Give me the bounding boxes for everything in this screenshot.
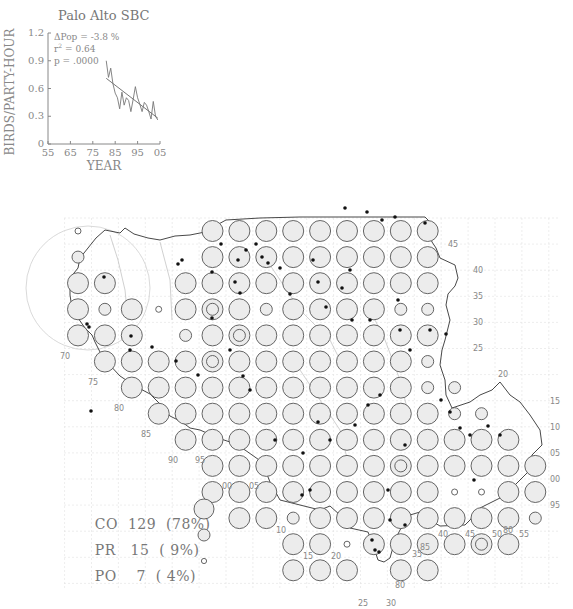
co-circle-icon: [229, 351, 250, 372]
co-circle-icon: [363, 351, 384, 372]
co-circle-icon: [390, 508, 411, 529]
co-circle-icon: [363, 221, 384, 242]
y-tick-label: 0.3: [28, 110, 44, 121]
co-circle-icon: [498, 482, 519, 503]
grid-label-right: 45: [448, 240, 458, 249]
co-circle-icon: [471, 508, 492, 529]
sighting-dot: [174, 359, 178, 363]
co-circle-icon: [363, 247, 384, 268]
grid-label-bottom: 95: [195, 456, 205, 465]
po-circle-icon: [75, 228, 81, 234]
sighting-dot: [308, 488, 312, 492]
co-circle-icon: [229, 377, 250, 398]
sighting-dot: [353, 423, 357, 427]
legend-po-circle-icon: [201, 558, 206, 563]
co-circle-icon: [310, 273, 331, 294]
sighting-dot: [403, 443, 407, 447]
sighting-dot: [273, 438, 277, 442]
co-circle-icon: [363, 325, 384, 346]
co-circle-icon: [256, 325, 277, 346]
co-circle-icon: [175, 273, 196, 294]
co-circle-icon: [256, 455, 277, 476]
sighting-dot: [377, 550, 381, 554]
sighting-dot: [366, 403, 370, 407]
sighting-dot: [408, 348, 412, 352]
po-circle-icon: [479, 489, 485, 495]
co-circle-icon: [363, 403, 384, 424]
grid-label-right: 20: [498, 370, 508, 379]
po-circle-icon: [452, 489, 458, 495]
co-circle-icon: [390, 351, 411, 372]
co-circle-icon: [390, 560, 411, 581]
co-circle-icon: [337, 482, 358, 503]
grid-label-right: 15: [550, 397, 560, 406]
sighting-dot: [370, 538, 374, 542]
co-circle-icon: [283, 325, 304, 346]
sighting-dot: [238, 291, 242, 295]
sighting-dot: [393, 215, 397, 219]
sighting-dot: [403, 523, 407, 527]
co-circle-icon: [256, 377, 277, 398]
grid-label-bottom: 90: [168, 456, 178, 465]
sighting-dot: [219, 242, 223, 246]
co-circle-icon: [283, 429, 304, 450]
sighting-dot: [486, 424, 490, 428]
grid-label-left: 70: [60, 352, 70, 361]
co-circle-icon: [310, 299, 331, 320]
sighting-dot: [368, 318, 372, 322]
sighting-dot: [468, 433, 472, 437]
co-circle-icon: [148, 351, 169, 372]
legend-pr-circle-icon: [198, 529, 210, 541]
co-circle-icon: [417, 247, 438, 268]
grid-label-right: 95: [550, 501, 560, 510]
sighting-dot: [236, 258, 240, 262]
sighting-dot: [87, 325, 91, 329]
co-circle-icon: [417, 325, 438, 346]
co-circle-icon: [229, 273, 250, 294]
co-circle-icon: [417, 455, 438, 476]
co-circle-icon: [202, 221, 223, 242]
co-circle-icon: [202, 273, 223, 294]
sighting-dot: [311, 258, 315, 262]
co-circle-icon: [390, 377, 411, 398]
sighting-dot: [85, 322, 89, 326]
co-circle-icon: [363, 455, 384, 476]
sighting-dot: [150, 345, 154, 349]
pr-circle-icon: [395, 303, 407, 315]
sighting-dot: [241, 374, 245, 378]
sighting-dot: [196, 373, 200, 377]
co-circle-icon: [256, 403, 277, 424]
grid-label-bottom: 30: [386, 599, 396, 608]
co-circle-icon: [363, 273, 384, 294]
grid-label-right: 10: [550, 423, 560, 432]
co-circle-icon: [363, 482, 384, 503]
co-circle-icon: [390, 221, 411, 242]
co-circle-icon: [390, 429, 411, 450]
sighting-dot: [386, 488, 390, 492]
pr-circle-icon: [260, 303, 272, 315]
co-circle-icon: [444, 508, 465, 529]
sighting-dot: [278, 266, 282, 270]
pr-circle-icon: [422, 303, 434, 315]
sighting-dot: [266, 261, 270, 265]
x-tick-label: 05: [154, 147, 167, 158]
grid-label-bottom: 10: [276, 526, 286, 535]
sighting-dot: [89, 409, 93, 413]
co-circle-icon: [229, 221, 250, 242]
x-axis-label: YEAR: [86, 159, 122, 173]
sighting-dot: [458, 426, 462, 430]
co-circle-icon: [229, 455, 250, 476]
pr-circle-icon: [180, 329, 192, 341]
sighting-dot: [498, 433, 502, 437]
sighting-dot: [316, 280, 320, 284]
atlas-map: 4540353025201510050095707580859095000510…: [0, 190, 573, 609]
co-circle-icon: [337, 273, 358, 294]
grid-label-right: 00: [550, 475, 560, 484]
co-circle-icon: [471, 455, 492, 476]
grid-label-bottom: 00: [222, 482, 232, 491]
grid-label-bottom-right: 80: [395, 581, 405, 590]
sighting-dot: [350, 318, 354, 322]
co-circle-icon: [202, 429, 223, 450]
trend-chart-plot: 00.30.60.91.2 556575859505 BIRDS/PARTY-H…: [0, 0, 200, 180]
co-circle-icon: [417, 273, 438, 294]
